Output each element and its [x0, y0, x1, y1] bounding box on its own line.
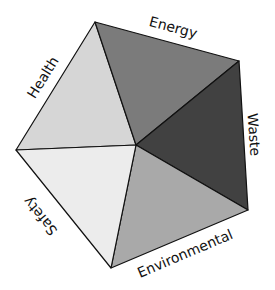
label-energy: Energy — [148, 13, 199, 41]
label-safety: Safety — [20, 194, 61, 239]
label-waste: Waste — [245, 113, 264, 157]
pentagon-diagram: Health Energy Waste Environmental Safety — [0, 0, 275, 290]
